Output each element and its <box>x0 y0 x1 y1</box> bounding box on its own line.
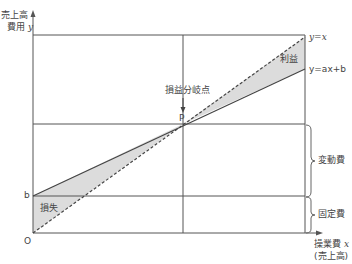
y-axis-label-line1: 売上高 <box>1 10 28 21</box>
profit-label: 利益 <box>280 54 298 65</box>
fixed-cost-label: 固定費 <box>318 209 345 220</box>
breakeven-chart <box>0 0 352 264</box>
x-axis-label-text: 操業費 <box>314 239 341 249</box>
intercept-b-label: b <box>24 190 30 201</box>
x-axis-var: x <box>344 239 349 249</box>
variable-cost-label: 変動費 <box>318 155 345 166</box>
x-axis-label-line2: (売上高) <box>314 251 348 262</box>
x-axis-label-line1: 操業費 x <box>314 239 349 250</box>
y-axis-var: y <box>28 22 33 32</box>
y-axis-label-line2: 費用 y <box>7 22 33 33</box>
y-axis-label-text: 費用 <box>7 22 25 32</box>
fixed-cost-brace <box>306 197 315 233</box>
y-axis-arrow-icon <box>31 10 36 17</box>
label-y-equals-x: y=x <box>309 32 327 43</box>
label-y-equals-ax-plus-b: y=ax+b <box>309 64 346 75</box>
loss-label: 損失 <box>40 203 58 214</box>
point-p-label: P <box>179 113 184 124</box>
line-y-equals-x <box>33 37 305 233</box>
breakeven-label: 損益分岐点 <box>165 85 210 96</box>
variable-cost-brace <box>306 125 315 197</box>
origin-label: O <box>24 236 31 247</box>
x-axis-arrow-icon <box>316 231 323 236</box>
